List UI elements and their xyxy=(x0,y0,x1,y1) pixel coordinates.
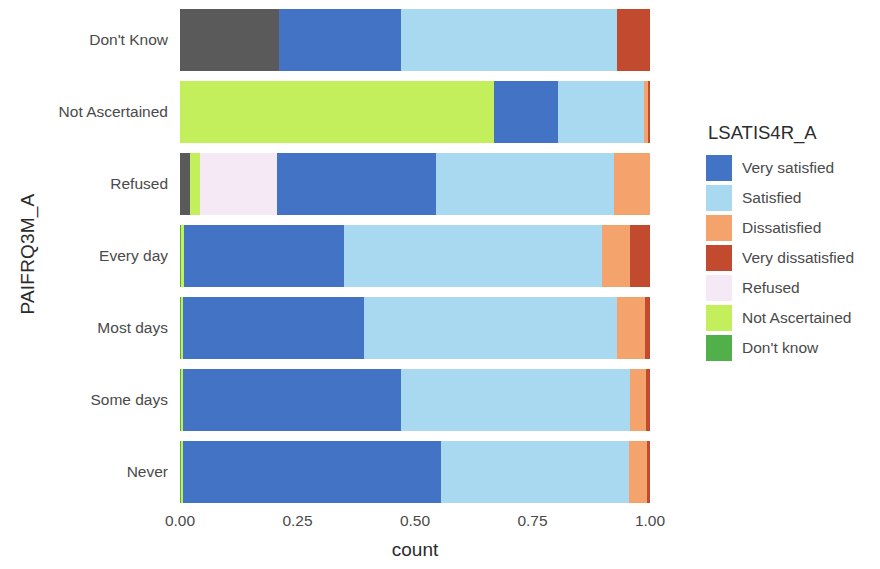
legend-item-label: Don't know xyxy=(742,339,818,357)
legend-item-very-dissatisfied: Very dissatisfied xyxy=(706,243,880,273)
x-tick-0-25: 0.25 xyxy=(282,512,312,530)
bar-segment-very-dissatisfied xyxy=(647,441,650,503)
bar-segment-very-satisfied xyxy=(183,369,402,431)
legend-swatch-icon xyxy=(706,275,732,301)
legend-swatch-icon xyxy=(706,215,732,241)
legend-item-label: Very dissatisfied xyxy=(742,249,854,267)
legend-item-very-satisfied: Very satisfied xyxy=(706,153,880,183)
legend-swatch-icon xyxy=(706,305,732,331)
y-tick-not-ascertained: Not Ascertained xyxy=(18,103,168,121)
y-tick-refused: Refused xyxy=(18,175,168,193)
legend-item-label: Refused xyxy=(742,279,800,297)
y-tick-never: Never xyxy=(18,463,168,481)
bar-stack xyxy=(180,225,650,287)
legend-items: Very satisfiedSatisfiedDissatisfiedVery … xyxy=(706,153,880,363)
bar-segment-satisfied xyxy=(436,153,614,215)
bar-refused xyxy=(180,153,650,215)
bar-segment-satisfied xyxy=(401,369,630,431)
legend-swatch-icon xyxy=(706,335,732,361)
bar-segment-na xyxy=(180,9,279,71)
bar-stack xyxy=(180,441,650,503)
legend-item-refused: Refused xyxy=(706,273,880,303)
legend-item-dissatisfied: Dissatisfied xyxy=(706,213,880,243)
y-tick-some-days: Some days xyxy=(18,391,168,409)
bar-not-ascertained xyxy=(180,81,650,143)
legend-item-label: Dissatisfied xyxy=(742,219,821,237)
bar-segment-very-dissatisfied xyxy=(617,9,650,71)
y-tick-don-t-know: Don't Know xyxy=(18,31,168,49)
x-axis-tick-labels: 0.000.250.500.751.00 xyxy=(180,512,650,536)
bar-segment-na xyxy=(180,153,190,215)
y-tick-most-days: Most days xyxy=(18,319,168,337)
bar-segment-satisfied xyxy=(364,297,616,359)
bar-segment-very-satisfied xyxy=(279,9,401,71)
legend-title: LSATIS4R_A xyxy=(708,122,880,144)
bar-stack xyxy=(180,297,650,359)
plot-panel xyxy=(180,4,650,508)
x-axis-title: count xyxy=(180,539,650,561)
legend-swatch-icon xyxy=(706,245,732,271)
bar-stack xyxy=(180,81,650,143)
x-tick-1-00: 1.00 xyxy=(635,512,665,530)
y-tick-every-day: Every day xyxy=(18,247,168,265)
bar-segment-very-satisfied xyxy=(183,297,364,359)
bar-segment-very-satisfied xyxy=(277,153,436,215)
bar-segment-very-dissatisfied xyxy=(630,225,650,287)
bar-segment-very-dissatisfied xyxy=(648,81,650,143)
bar-stack xyxy=(180,9,650,71)
bar-segment-satisfied xyxy=(441,441,629,503)
bar-segment-very-satisfied xyxy=(494,81,558,143)
bar-segment-satisfied xyxy=(344,225,603,287)
bar-most-days xyxy=(180,297,650,359)
y-axis-tick-labels: Don't KnowNot AscertainedRefusedEvery da… xyxy=(0,0,168,569)
bar-never xyxy=(180,441,650,503)
legend-item-label: Not Ascertained xyxy=(742,309,851,327)
bar-segment-very-dissatisfied xyxy=(646,369,650,431)
legend-item-don-t-know: Don't know xyxy=(706,333,880,363)
bar-segment-very-dissatisfied xyxy=(645,297,650,359)
bar-segment-dissatisfied xyxy=(629,441,647,503)
bar-don-t-know xyxy=(180,9,650,71)
bar-segment-satisfied xyxy=(401,9,617,71)
x-tick-0-50: 0.50 xyxy=(400,512,430,530)
legend-item-label: Very satisfied xyxy=(742,159,834,177)
chart-root: PAIFRQ3M_A Don't KnowNot AscertainedRefu… xyxy=(0,0,880,569)
bar-segment-dissatisfied xyxy=(617,297,645,359)
bar-segment-refused xyxy=(200,153,278,215)
bar-segment-dissatisfied xyxy=(630,369,646,431)
bar-segment-not-ascertained xyxy=(190,153,200,215)
bar-every-day xyxy=(180,225,650,287)
bar-segment-very-satisfied xyxy=(183,441,442,503)
legend-swatch-icon xyxy=(706,185,732,211)
bar-segment-not-ascertained xyxy=(180,81,494,143)
bar-segment-dissatisfied xyxy=(602,225,630,287)
bar-some-days xyxy=(180,369,650,431)
bar-segment-satisfied xyxy=(558,81,644,143)
x-tick-0-75: 0.75 xyxy=(517,512,547,530)
bar-stack xyxy=(180,153,650,215)
x-tick-0-00: 0.00 xyxy=(165,512,195,530)
legend-item-label: Satisfied xyxy=(742,189,801,207)
bar-stack xyxy=(180,369,650,431)
bar-segment-very-satisfied xyxy=(184,225,344,287)
bar-segment-dissatisfied xyxy=(614,153,650,215)
legend-item-not-ascertained: Not Ascertained xyxy=(706,303,880,333)
legend: LSATIS4R_A Very satisfiedSatisfiedDissat… xyxy=(706,122,880,363)
legend-item-satisfied: Satisfied xyxy=(706,183,880,213)
legend-swatch-icon xyxy=(706,155,732,181)
